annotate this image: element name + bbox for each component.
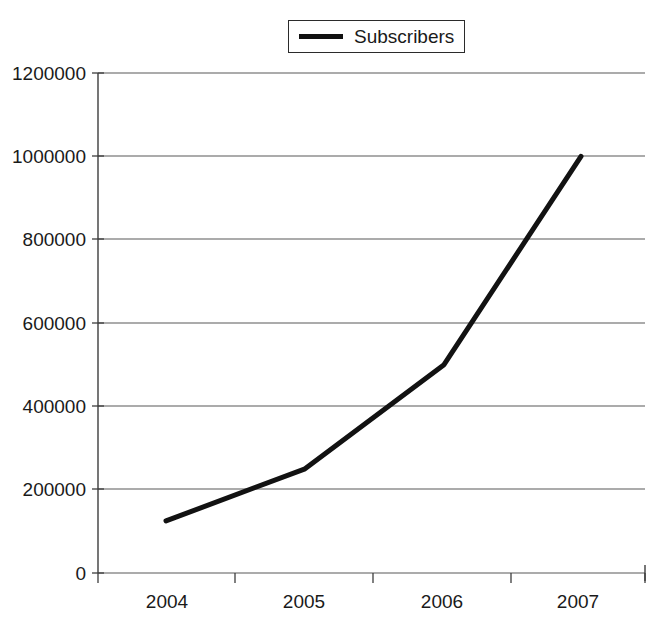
line-chart: Subscribers 1200000 10 xyxy=(0,0,662,627)
x-axis-label-2004: 2004 xyxy=(112,592,222,611)
plot-area xyxy=(0,0,662,627)
y-tick-label-wrap: 600000 xyxy=(0,314,86,333)
x-axis-label-2006: 2006 xyxy=(387,592,497,611)
y-axis-label-600000: 600000 xyxy=(23,314,86,333)
series-line-subscribers xyxy=(166,156,581,521)
y-axis-label-400000: 400000 xyxy=(23,397,86,416)
y-axis-label-800000: 800000 xyxy=(23,230,86,249)
y-axis-label-1200000: 1200000 xyxy=(12,64,86,83)
y-tick-label-wrap: 1000000 xyxy=(0,147,86,166)
x-axis-label-2007: 2007 xyxy=(523,592,633,611)
y-axis-label-200000: 200000 xyxy=(23,480,86,499)
y-tick-label-wrap: 0 xyxy=(0,564,86,583)
x-axis-label-2005: 2005 xyxy=(249,592,359,611)
y-tick-label-wrap: 400000 xyxy=(0,397,86,416)
y-tick-label-wrap: 1200000 xyxy=(0,64,86,83)
y-axis-label-1000000: 1000000 xyxy=(12,147,86,166)
y-axis-label-0: 0 xyxy=(75,564,86,583)
y-tick-label-wrap: 800000 xyxy=(0,230,86,249)
y-tick-label-wrap: 200000 xyxy=(0,480,86,499)
